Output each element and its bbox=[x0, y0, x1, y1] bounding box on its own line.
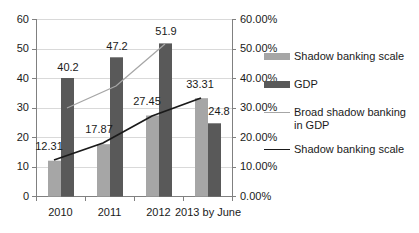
category-separators bbox=[36, 197, 232, 201]
legend-item-shadow-banking-scale-line[interactable]: Shadow banking scale bbox=[264, 143, 416, 156]
legend-label-shadow-banking-scale-line: Shadow banking scale bbox=[294, 143, 404, 156]
chart-legend: Shadow banking scale GDP Broad shadow ba… bbox=[264, 50, 416, 167]
y-axis-tick-40: 40 bbox=[2, 73, 29, 84]
data-label-gdp-2012: 51.9 bbox=[147, 26, 185, 37]
legend-swatch-gdp bbox=[264, 78, 290, 91]
y2-axis-tick-0: 0.00% bbox=[240, 191, 271, 202]
legend-label-broad-shadow-banking-in-gdp: Broad shadow banking in GDP bbox=[294, 106, 416, 132]
bar-gdp-2013 bbox=[208, 123, 221, 196]
legend-label-gdp: GDP bbox=[294, 78, 318, 91]
bar-gdp-2012 bbox=[159, 43, 172, 196]
legend-swatch-shadow-banking-scale bbox=[264, 50, 290, 63]
x-axis-label-2010: 2010 bbox=[36, 207, 85, 218]
legend-label-shadow-banking-scale: Shadow banking scale bbox=[294, 50, 404, 63]
legend-item-shadow-banking-scale-bar[interactable]: Shadow banking scale bbox=[264, 50, 416, 63]
y-axis-tick-20: 20 bbox=[2, 132, 29, 143]
data-label-shadow-banking-2013: 33.31 bbox=[177, 79, 223, 90]
left-axis bbox=[32, 19, 37, 197]
data-label-gdp-2010: 40.2 bbox=[49, 62, 87, 73]
legend-line-shadow-banking-scale bbox=[264, 143, 290, 156]
data-label-shadow-banking-2011: 17.87 bbox=[78, 124, 120, 135]
y-axis-tick-30: 30 bbox=[2, 102, 29, 113]
line-shadow-banking-scale bbox=[54, 98, 201, 160]
legend-line-broad-shadow-banking-in-gdp bbox=[264, 106, 290, 119]
bar-shadow-banking-2012 bbox=[146, 116, 159, 197]
x-axis-label-2011: 2011 bbox=[85, 207, 134, 218]
legend-item-gdp-bar[interactable]: GDP bbox=[264, 78, 416, 91]
y-axis-tick-50: 50 bbox=[2, 43, 29, 54]
bar-shadow-banking-2010 bbox=[48, 161, 61, 197]
chart-container: 60 50 40 30 20 10 0 60.00% 50.00% 40.00%… bbox=[0, 0, 419, 233]
y2-axis-tick-60: 60.00% bbox=[240, 14, 277, 25]
data-label-shadow-banking-2012: 27.45 bbox=[126, 96, 168, 107]
x-axis-label-2013-by-june: 2013 by June bbox=[175, 207, 240, 218]
bar-shadow-banking-2011 bbox=[97, 144, 110, 196]
data-label-shadow-banking-2010: 12.31 bbox=[28, 141, 70, 152]
y-axis-tick-10: 10 bbox=[2, 161, 29, 172]
bar-gdp-2010 bbox=[61, 78, 74, 197]
data-label-gdp-2013: 24.8 bbox=[198, 106, 240, 117]
data-label-gdp-2011: 47.2 bbox=[98, 41, 136, 52]
y-axis-tick-0: 0 bbox=[2, 191, 29, 202]
legend-item-broad-shadow-banking-in-gdp-line[interactable]: Broad shadow banking in GDP bbox=[264, 106, 416, 132]
y-axis-tick-60: 60 bbox=[2, 14, 29, 25]
